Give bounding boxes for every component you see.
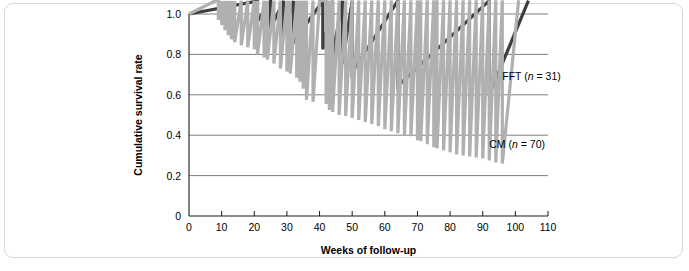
x-tick-label: 80 [444,221,456,233]
x-tick-label: 50 [346,221,358,233]
x-tick-label: 20 [248,221,260,233]
x-axis-title: Weeks of follow-up [321,244,416,256]
data-series-group [189,0,528,163]
x-tick-label: 60 [379,221,391,233]
y-tick-label: 0.4 [166,129,181,141]
x-axis-ticks [222,211,548,216]
y-tick-label: 1.0 [166,8,181,20]
x-tick-label: 30 [281,221,293,233]
x-tick-label: 70 [412,221,424,233]
series-label-cm: CM (n = 70) [489,138,545,150]
x-tick-label: 90 [477,221,489,233]
x-tick-label: 100 [507,221,525,233]
y-tick-label: 0.6 [166,89,181,101]
x-tick-label: 0 [186,221,192,233]
y-tick-label: 0 [175,210,181,222]
x-tick-label: 40 [314,221,326,233]
survival-chart: 0102030405060708090100110 00.20.40.60.81… [0,0,689,271]
series-label-fft: FFT (n = 31) [502,70,560,82]
y-axis-tick-labels: 00.20.40.60.81.0 [166,8,181,222]
y-tick-label: 0.2 [166,170,181,182]
y-axis-title: Cumulative survival rate [132,54,144,176]
x-tick-label: 10 [216,221,228,233]
x-axis-tick-labels: 0102030405060708090100110 [186,221,556,233]
series-line-cm [189,0,519,163]
x-tick-label: 110 [540,221,557,233]
y-tick-label: 0.8 [166,48,181,60]
